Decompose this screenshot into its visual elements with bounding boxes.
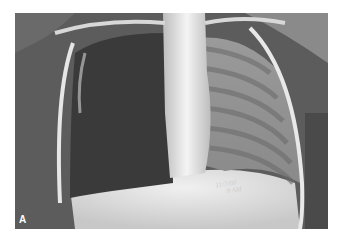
chest-xray-image: 11/7/00 9 AM A bbox=[15, 13, 328, 229]
xray-drawing bbox=[15, 13, 328, 229]
left-arm-shadow bbox=[305, 113, 328, 229]
mediastinum bbox=[163, 13, 211, 178]
panel-label: A bbox=[19, 214, 26, 225]
right-lung bbox=[70, 33, 173, 198]
